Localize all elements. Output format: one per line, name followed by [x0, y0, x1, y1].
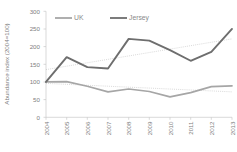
- chart-legend: UK Jersey: [55, 14, 150, 22]
- x-tick-label-2008: 2008: [125, 121, 132, 135]
- caption-strip: [0, 144, 237, 152]
- x-tick-label-2007: 2007: [105, 121, 112, 135]
- y-axis-title: Abundance index (2004=100): [3, 23, 10, 104]
- y-tick-label-0: 0: [37, 114, 41, 121]
- y-tick-label-300: 300: [30, 8, 41, 15]
- y-tick-label-200: 200: [30, 43, 41, 50]
- y-tick-labels: 300 250 200 150 100 50 0: [30, 8, 41, 121]
- x-tick-label-2010: 2010: [167, 121, 174, 135]
- x-tick-label-2009: 2009: [146, 121, 153, 135]
- y-axis-title-group: Abundance index (2004=100): [3, 23, 10, 104]
- x-tick-labels: 2004 2005 2006 2007 2008 2009 2010 2011 …: [43, 121, 236, 135]
- x-tick-label-2013: 2013: [229, 121, 236, 135]
- y-tick-label-100: 100: [30, 78, 41, 85]
- data-series: [46, 29, 232, 97]
- y-tick-label-50: 50: [33, 96, 40, 103]
- y-tick-label-250: 250: [30, 25, 41, 32]
- x-tick-label-2005: 2005: [63, 121, 70, 135]
- uk-series-line: [46, 82, 232, 97]
- x-tick-marks: [46, 117, 232, 120]
- y-tick-label-150: 150: [30, 61, 41, 68]
- x-tick-label-2004: 2004: [43, 121, 50, 135]
- x-tick-label-2006: 2006: [84, 121, 91, 135]
- line-chart-svg: Abundance index (2004=100) 300 250 200 1…: [0, 0, 237, 152]
- x-tick-label-2011: 2011: [187, 121, 194, 135]
- chart-figure: Abundance index (2004=100) 300 250 200 1…: [0, 0, 237, 152]
- y-tick-marks: [44, 11, 47, 117]
- x-tick-label-2012: 2012: [208, 121, 215, 135]
- legend-label-uk: UK: [74, 14, 84, 21]
- jersey-series-line: [46, 29, 232, 82]
- legend-label-jersey: Jersey: [129, 14, 150, 22]
